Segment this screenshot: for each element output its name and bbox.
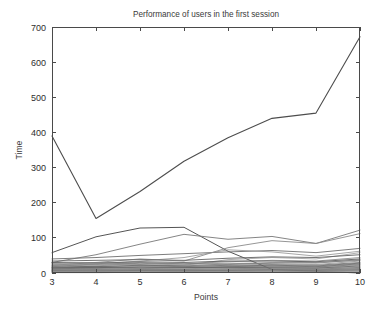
y-tick-label: 100 (31, 233, 46, 243)
y-axis-label: Time (14, 140, 24, 159)
series-line-user-1 (52, 37, 360, 219)
chart-title: Performance of users in the first sessio… (133, 10, 280, 19)
x-tick-label: 4 (93, 277, 98, 287)
x-tick-label: 9 (313, 277, 318, 287)
x-tick-label: 3 (49, 277, 54, 287)
y-tick-label: 0 (41, 269, 46, 279)
y-tick-label: 700 (31, 23, 46, 33)
x-axis-label: Points (194, 292, 218, 302)
x-tick-label: 7 (225, 277, 230, 287)
chart-figure: Performance of users in the first sessio… (0, 0, 371, 316)
y-tick-label: 600 (31, 58, 46, 68)
x-tick-label: 10 (355, 277, 365, 287)
series-layer (52, 37, 360, 273)
y-tick-label: 200 (31, 198, 46, 208)
x-tick-label: 8 (269, 277, 274, 287)
y-tick-labels: 0100200300400500600700 (31, 23, 46, 279)
y-tick-label: 400 (31, 128, 46, 138)
y-tick-label: 300 (31, 163, 46, 173)
y-tick-label: 500 (31, 93, 46, 103)
x-tick-label: 6 (181, 277, 186, 287)
x-tick-label: 5 (137, 277, 142, 287)
x-tick-labels: 345678910 (49, 277, 365, 287)
line-chart: Performance of users in the first sessio… (0, 0, 371, 316)
